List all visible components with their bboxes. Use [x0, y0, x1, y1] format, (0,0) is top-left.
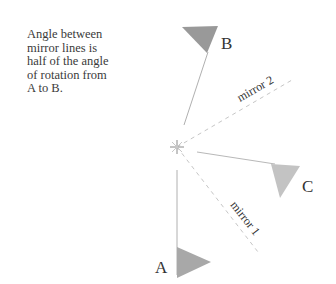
- mirror-1-line: [177, 147, 258, 252]
- label-b: B: [221, 34, 232, 53]
- label-c: C: [302, 177, 313, 196]
- triangle-b: [182, 26, 218, 53]
- center-point-icon: [170, 140, 184, 154]
- label-mirror-2: mirror 2: [235, 73, 276, 105]
- label-a: A: [155, 258, 168, 277]
- mirror-2-line: [177, 80, 292, 147]
- label-mirror-1: mirror 1: [228, 198, 263, 238]
- radius-line-b: [184, 52, 208, 125]
- triangle-c: [271, 164, 300, 198]
- radius-line-c: [197, 152, 275, 164]
- rotation-diagram: A B C mirror 2 mirror 1: [0, 0, 336, 284]
- triangle-a: [177, 247, 211, 278]
